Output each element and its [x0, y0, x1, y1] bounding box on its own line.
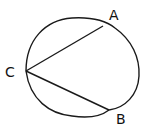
label-a: A	[109, 7, 119, 23]
label-b: B	[116, 111, 126, 127]
label-c: C	[5, 64, 15, 80]
chord-cb	[26, 71, 109, 110]
chord-ca	[26, 26, 103, 71]
geometry-diagram: A B C	[0, 0, 145, 130]
circle	[26, 18, 139, 117]
